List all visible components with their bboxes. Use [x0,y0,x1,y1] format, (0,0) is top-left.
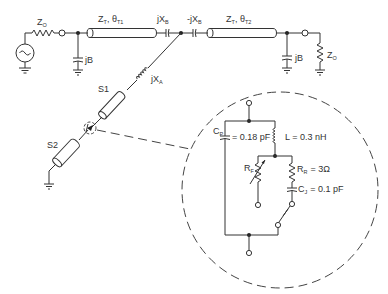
variable-resistor [255,163,261,182]
cj-terminal [289,201,294,206]
stub-s1 [97,90,126,120]
stub-s1-label: S1 [98,84,109,94]
series-inductor-label: jXA [150,74,163,85]
sine-icon [20,51,31,55]
bias-switch [275,206,290,228]
ground-icon [44,184,54,189]
package-cap-label: CP [213,126,224,137]
shunt-susceptance-left-label: jB [84,55,93,65]
input-terminal [59,30,65,36]
package-cap-value: = 0.18 pF [232,132,271,142]
transmission-line-1 [87,29,156,38]
detail-terminal-bottom [246,250,251,255]
source-resistor [32,30,54,36]
series-reactance-left-label: jXB [156,14,169,25]
detail-leader-line [97,130,190,149]
load-resistor [317,43,323,62]
shunt-capacitor-right [282,33,292,73]
ground-icon [19,68,31,73]
shunt-susceptance-right-label: jB [294,53,303,63]
ac-source [16,33,34,68]
series-resistance-label: RR= 3Ω [297,164,330,175]
series-reactance-right-label: -jXB [187,14,202,25]
line1-label: ZT, θT1 [98,14,123,25]
lead-inductor [273,128,275,143]
stub-s2-label: S2 [47,140,58,150]
load-impedance-label: ZO [327,50,338,61]
junction-cap-label: CJ= 0.1 pF [298,184,344,195]
detail-terminal-top [246,100,251,105]
line2-label: ZT, θT2 [226,14,251,25]
rf-terminal [255,202,260,207]
transmission-line-2 [207,29,276,38]
ground-icon [315,70,325,75]
inductance-label: L = 0.3 nH [285,132,326,142]
series-resistor [289,163,295,182]
series-inductor-branch [136,67,148,79]
source-impedance-label: ZO [37,17,48,28]
output-terminal [302,30,308,36]
detail-magnifier-circle [182,92,378,288]
circuit-diagram: ZO jB ZT, θT1 jXB -jXB ZT, θT2 [0,0,388,294]
variable-resistor-label: RF [244,163,255,174]
shunt-capacitor-left [73,33,83,75]
